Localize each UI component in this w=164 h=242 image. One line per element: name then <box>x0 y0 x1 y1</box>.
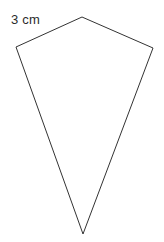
geometry-figure <box>0 0 164 242</box>
side-length-label: 3 cm <box>11 12 40 27</box>
